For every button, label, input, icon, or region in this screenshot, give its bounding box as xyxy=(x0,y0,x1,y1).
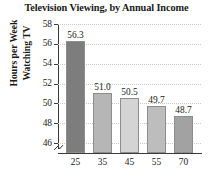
bar xyxy=(147,106,166,153)
bar xyxy=(174,116,193,153)
y-axis-tick-label: 50 xyxy=(36,99,52,108)
y-axis-tick-label: 54 xyxy=(36,59,52,68)
bar xyxy=(66,41,85,153)
y-axis-tick-label: 58 xyxy=(36,20,52,29)
y-axis-tick-label: 46 xyxy=(36,139,52,148)
y-axis-title-line-1: Hours per Week xyxy=(8,0,21,108)
bar-chart: Television Viewing, by Annual Income Hou… xyxy=(0,0,213,182)
bar xyxy=(120,98,139,153)
y-axis-title: Hours per Week Watching TV xyxy=(8,0,36,108)
x-axis-tick-label: 25 xyxy=(61,157,90,168)
x-axis-tick-label: 55 xyxy=(142,157,171,168)
bar xyxy=(93,93,112,153)
x-axis-line xyxy=(58,153,202,154)
y-axis-tick-label: 48 xyxy=(36,119,52,128)
x-axis-tick-label: 35 xyxy=(88,157,117,168)
gridline xyxy=(58,24,201,25)
bar-value-label: 48.7 xyxy=(168,105,199,115)
chart-title: Television Viewing, by Annual Income xyxy=(0,1,213,14)
bar-value-label: 49.7 xyxy=(141,95,172,105)
y-axis-title-line-2: Watching TV xyxy=(21,0,34,108)
x-axis-tick-label: 45 xyxy=(115,157,144,168)
x-axis-tick-label: 70 xyxy=(169,157,198,168)
y-axis-tick-label: 56 xyxy=(36,39,52,48)
y-axis-tick-label: 52 xyxy=(36,79,52,88)
bar-value-label: 56.3 xyxy=(60,30,91,40)
